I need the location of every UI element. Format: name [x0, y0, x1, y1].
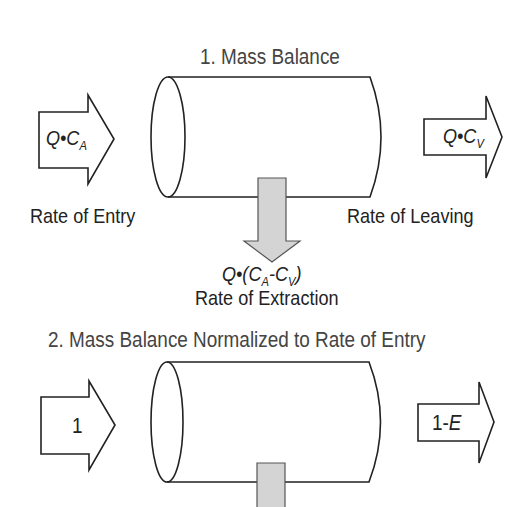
section-1-title: 1. Mass Balance — [200, 44, 340, 70]
leaving-value-2: 1-E — [432, 410, 461, 436]
section-2-title: 2. Mass Balance Normalized to Rate of En… — [48, 327, 426, 353]
extraction-label-1: Rate of Extraction — [195, 286, 339, 310]
entry-label-1: Rate of Entry — [30, 204, 135, 228]
extraction-formula-mid: -C — [269, 262, 288, 285]
leaving-formula-1: Q•CV — [443, 124, 484, 151]
extraction-formula-suffix: ) — [295, 262, 301, 285]
extraction-arrow-1 — [244, 178, 300, 262]
leaving-value-prefix: 1- — [432, 410, 449, 435]
entry-formula-1: Q•CA — [46, 126, 87, 153]
leaving-label-1: Rate of Leaving — [347, 204, 474, 228]
leaving-formula-subscript: V — [476, 136, 483, 151]
leaving-value-variable: E — [449, 410, 462, 435]
entry-value-2: 1 — [72, 413, 83, 439]
entry-formula-base: Q•C — [46, 126, 79, 149]
leaving-formula-base: Q•C — [443, 124, 476, 147]
extraction-formula-prefix: Q•(C — [222, 262, 261, 285]
extraction-arrow-2 — [257, 463, 285, 507]
entry-formula-subscript: A — [79, 138, 86, 153]
